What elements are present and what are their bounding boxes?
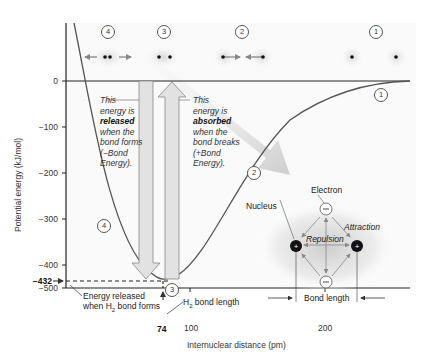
y-tick-0: 0 <box>18 76 58 86</box>
svg-text:+: + <box>355 242 360 251</box>
curve-stage-1: 1 <box>374 88 388 102</box>
stage-3-marker: 3 <box>157 25 171 39</box>
potential-energy-figure: + + Potential energy (kJ/mol) 0 −100 −20… <box>0 0 427 361</box>
stage-4-marker: 4 <box>101 25 115 39</box>
svg-text:+: + <box>294 242 299 251</box>
energy-released-label: Energy released when H2 bond forms <box>83 291 160 315</box>
x-axis-label: Internuclear distance (pm) <box>187 340 286 350</box>
x-tick-200: 200 <box>318 323 332 333</box>
stage-2-marker: 2 <box>235 25 249 39</box>
y-tick-400: −400 <box>18 260 58 270</box>
y-tick-100: −100 <box>18 122 58 132</box>
repulsion-label: Repulsion <box>306 234 344 244</box>
y-tick-300: −300 <box>18 214 58 224</box>
curve-stage-4: 4 <box>97 219 111 233</box>
electron-label: Electron <box>311 185 342 195</box>
x-tick-74: 74 <box>157 324 166 334</box>
released-annotation: This energy is released when the bond fo… <box>100 95 143 169</box>
y-tick-500: −500 <box>18 283 58 293</box>
bond-length-inset-label: Bond length <box>304 293 349 303</box>
stage-1-marker: 1 <box>369 25 383 39</box>
absorbed-annotation: This energy is absorbed when the bond br… <box>193 95 240 169</box>
attraction-label: Attraction <box>344 222 380 232</box>
curve-stage-3: 3 <box>165 283 179 297</box>
nucleus-label: Nucleus <box>246 201 277 211</box>
bond-length-label: H2 bond length <box>183 297 239 311</box>
curve-stage-2: 2 <box>247 166 261 180</box>
y-axis-label: Potential energy (kJ/mol) <box>13 115 23 255</box>
y-tick-200: −200 <box>18 168 58 178</box>
x-tick-100: 100 <box>184 323 198 333</box>
stage-3-molecule <box>147 46 179 68</box>
